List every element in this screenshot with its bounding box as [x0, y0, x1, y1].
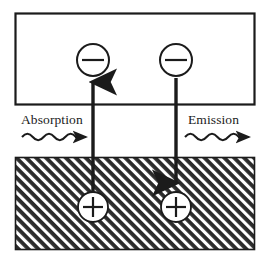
- valence-band-hatched: [15, 157, 255, 250]
- band-diagram-figure: Absorption Emission: [0, 0, 269, 262]
- hole-circle-right: [161, 192, 191, 222]
- hole-circle-left: [78, 192, 108, 222]
- absorption-label: Absorption: [21, 112, 83, 127]
- emission-label: Emission: [188, 112, 239, 127]
- absorption-photon-arrow: [22, 134, 86, 141]
- electron-circle-right: [160, 44, 192, 76]
- band-diagram-canvas: Absorption Emission: [0, 0, 269, 262]
- electron-circle-left: [77, 44, 109, 76]
- emission-photon-arrow: [185, 134, 249, 141]
- conduction-band-box: [16, 14, 255, 105]
